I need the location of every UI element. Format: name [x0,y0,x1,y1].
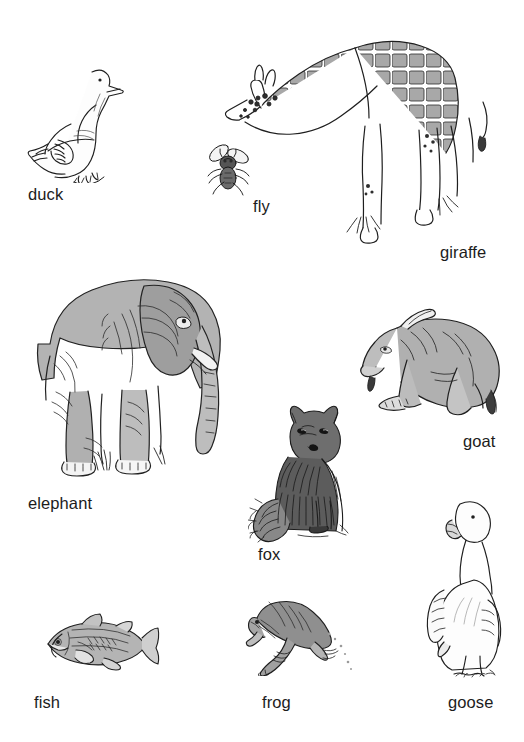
label-elephant: elephant [28,495,92,512]
giraffe-illustration [205,18,495,248]
duck-illustration [22,58,137,183]
elephant-illustration [18,252,258,484]
fish-illustration [32,608,162,678]
vocabulary-sheet: duck fly [0,0,524,742]
goose-illustration [424,498,524,680]
label-frog: frog [262,694,291,711]
label-duck: duck [28,186,63,203]
label-fish: fish [34,694,60,711]
label-goose: goose [448,694,493,711]
label-goat: goat [463,433,496,450]
label-fox: fox [258,546,280,563]
label-giraffe: giraffe [440,244,486,261]
frog-illustration [243,594,361,676]
fox-illustration [248,405,376,543]
